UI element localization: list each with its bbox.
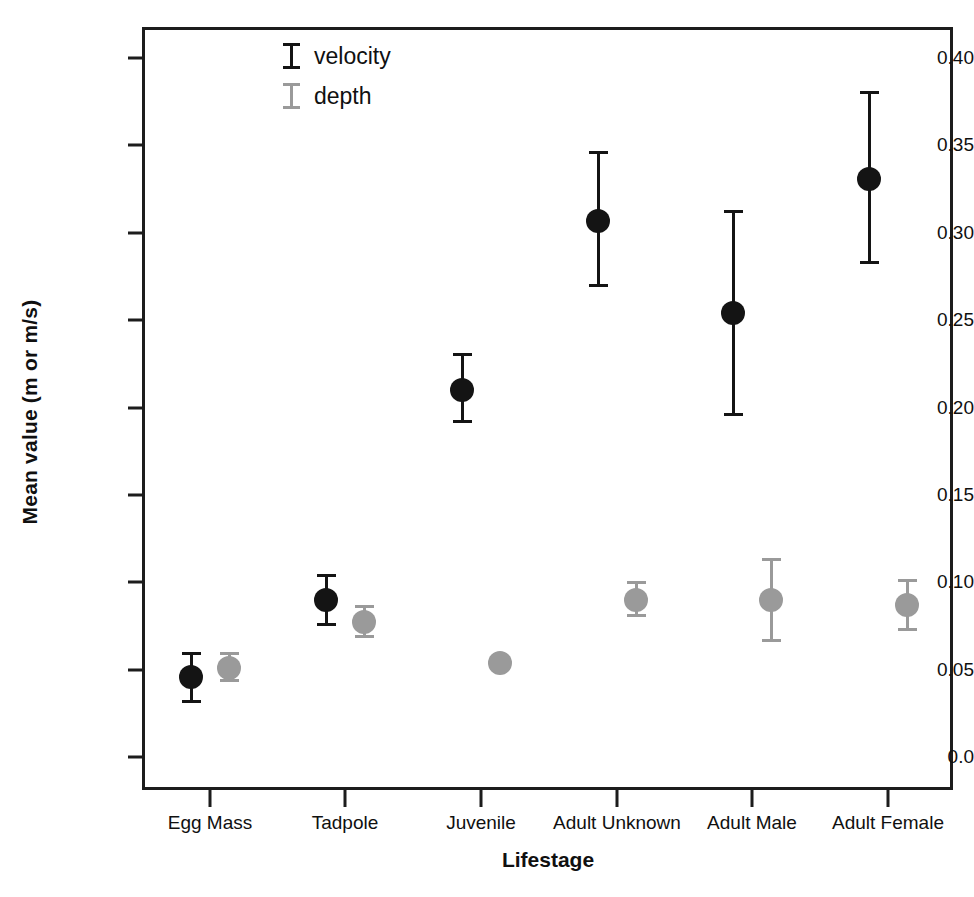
- error-bar-cap-bottom: [762, 639, 781, 642]
- error-bar-cap-bottom: [860, 261, 879, 264]
- x-axis-title: Lifestage: [142, 848, 954, 872]
- y-tick-mark: [128, 319, 143, 322]
- y-tick-label: 0.20: [904, 397, 974, 419]
- legend-item-depth: depth: [278, 76, 498, 116]
- error-bar-cap-bottom: [355, 635, 374, 638]
- y-tick-mark: [128, 756, 143, 759]
- legend-item-velocity: velocity: [278, 36, 498, 76]
- y-tick-label: 0.0: [904, 746, 974, 768]
- y-tick-label: 0.40: [904, 47, 974, 69]
- error-bar-cap-top: [762, 558, 781, 561]
- error-bar-cap-top: [724, 210, 743, 213]
- y-tick-label: 0.30: [904, 222, 974, 244]
- error-bar-cap-top: [453, 353, 472, 356]
- legend-marker-icon: [278, 39, 304, 73]
- legend-marker-part: [283, 43, 300, 46]
- y-tick-mark: [128, 668, 143, 671]
- error-bar-cap-bottom: [627, 614, 646, 617]
- error-bar-cap-bottom: [317, 623, 336, 626]
- marker-dot: [450, 378, 474, 402]
- y-axis-title: Mean value (m or m/s): [18, 192, 42, 632]
- marker-dot: [217, 656, 241, 680]
- error-bar-cap-top: [182, 652, 201, 655]
- legend-marker-part: [283, 83, 300, 86]
- x-tick-mark: [751, 790, 754, 807]
- plot-area: [142, 27, 953, 790]
- error-bar-cap-top: [355, 605, 374, 608]
- marker-dot: [179, 665, 203, 689]
- marker-dot: [895, 593, 919, 617]
- marker-dot: [759, 588, 783, 612]
- legend-marker-icon: [278, 79, 304, 113]
- chart-legend: velocitydepth: [278, 36, 498, 116]
- marker-dot: [857, 167, 881, 191]
- x-tick-mark: [887, 790, 890, 807]
- y-tick-mark: [128, 493, 143, 496]
- y-tick-mark: [128, 231, 143, 234]
- error-bar-cap-top: [898, 579, 917, 582]
- y-tick-label: 0.10: [904, 571, 974, 593]
- x-tick-mark: [480, 790, 483, 807]
- y-tick-label: 0.35: [904, 134, 974, 156]
- marker-dot: [586, 209, 610, 233]
- error-bar-cap-top: [589, 151, 608, 154]
- marker-dot: [721, 301, 745, 325]
- error-bar-cap-bottom: [898, 628, 917, 631]
- x-tick-label: Adult Female: [793, 812, 974, 834]
- error-bar-cap-top: [627, 581, 646, 584]
- y-tick-mark: [128, 581, 143, 584]
- error-bar-cap-bottom: [182, 700, 201, 703]
- error-bar-cap-bottom: [589, 284, 608, 287]
- marker-dot: [488, 651, 512, 675]
- y-tick-label: 0.05: [904, 659, 974, 681]
- error-bar-chart: Mean value (m or m/s) 0.00.050.100.150.2…: [0, 0, 974, 897]
- error-bar-cap-top: [317, 574, 336, 577]
- x-tick-mark: [344, 790, 347, 807]
- legend-label: depth: [314, 83, 372, 110]
- marker-dot: [314, 588, 338, 612]
- y-tick-mark: [128, 57, 143, 60]
- legend-marker-part: [283, 66, 300, 69]
- error-bar-cap-bottom: [453, 420, 472, 423]
- legend-marker-part: [283, 106, 300, 109]
- y-tick-label: 0.25: [904, 309, 974, 331]
- legend-label: velocity: [314, 43, 391, 70]
- error-bar-cap-bottom: [724, 413, 743, 416]
- marker-dot: [624, 588, 648, 612]
- y-tick-label: 0.15: [904, 484, 974, 506]
- x-tick-mark: [616, 790, 619, 807]
- x-tick-mark: [209, 790, 212, 807]
- y-tick-mark: [128, 144, 143, 147]
- y-tick-mark: [128, 406, 143, 409]
- error-bar-cap-top: [860, 91, 879, 94]
- error-bar-cap-top: [220, 652, 239, 655]
